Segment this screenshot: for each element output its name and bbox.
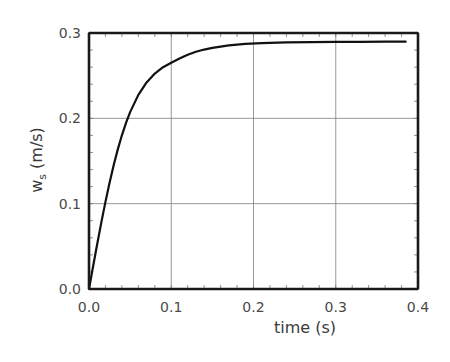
y-tick-labels: 0.00.10.20.3 — [59, 25, 81, 297]
grid-lines — [89, 33, 418, 289]
y-axis-label-main: w — [27, 180, 46, 193]
x-tick-label: 0.4 — [407, 299, 429, 315]
x-axis-label: time (s) — [274, 318, 336, 337]
y-tick-label: 0.3 — [59, 25, 81, 41]
chart: 0.00.10.20.30.4 0.00.10.20.3 time (s) ws… — [0, 0, 450, 362]
y-tick-label: 0.2 — [59, 110, 81, 126]
x-tick-label: 0.2 — [242, 299, 264, 315]
data-series-ws-curve — [89, 42, 406, 289]
y-tick-label: 0.1 — [59, 196, 81, 212]
x-tick-label: 0.1 — [160, 299, 182, 315]
x-tick-label: 0.3 — [325, 299, 347, 315]
x-tick-label: 0.0 — [78, 299, 100, 315]
x-tick-labels: 0.00.10.20.30.4 — [78, 299, 429, 315]
y-axis-label: ws (m/s) — [27, 127, 49, 193]
y-tick-label: 0.0 — [59, 281, 81, 297]
y-axis-label-unit: (m/s) — [27, 127, 46, 174]
